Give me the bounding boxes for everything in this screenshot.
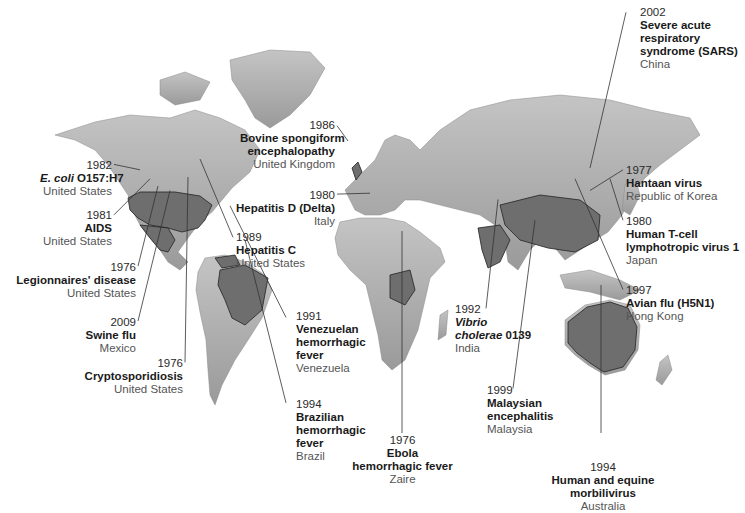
year: 1994 (296, 398, 376, 411)
disease-name: Hepatitis D (Delta) (235, 202, 335, 215)
disease-name: encephalitis (487, 410, 567, 423)
disease-name: Hepatitis C (236, 244, 326, 257)
disease-name: hemorrhagic (296, 336, 376, 349)
disease-name: respiratory (640, 32, 745, 45)
country: United States (40, 185, 112, 198)
label-sars: 2002 Severe acute respiratory syndrome (… (640, 6, 745, 71)
country: United States (40, 235, 112, 248)
year: 1980 (235, 189, 335, 202)
label-malaysian-encephalitis: 1999 Malaysian encephalitis Malaysia (487, 384, 567, 436)
disease-name: Cryptosporidiosis (80, 370, 183, 383)
disease-name: cholerae 0139 (455, 329, 535, 342)
label-legionnaires: 1976 Legionnaires' disease United States (10, 261, 136, 300)
country: Italy (235, 215, 335, 228)
year: 1982 (40, 159, 112, 172)
year: 1999 (487, 384, 567, 397)
label-hepatitis-c: 1989 Hepatitis C United States (236, 231, 326, 270)
country: Venezuela (296, 362, 376, 375)
year: 1976 (80, 357, 183, 370)
year: 2009 (60, 316, 136, 329)
disease-name: Swine flu (60, 329, 136, 342)
disease-name: fever (296, 349, 376, 362)
year: 1976 (350, 434, 455, 447)
label-hantaan: 1977 Hantaan virus Republic of Korea (626, 164, 741, 203)
country: India (455, 342, 535, 355)
disease-name: Human and equine (548, 474, 658, 487)
year: 1992 (455, 303, 535, 316)
label-ecoli: 1982 E. coli O157:H7 United States (40, 159, 112, 198)
disease-name: Vibrio (455, 316, 535, 329)
label-hepatitis-d: 1980 Hepatitis D (Delta) Italy (235, 189, 335, 228)
country: Japan (626, 254, 745, 267)
year: 1981 (40, 209, 112, 222)
disease-name: Legionnaires' disease (10, 274, 136, 287)
year: 1997 (626, 284, 741, 297)
disease-name: Bovine spongiform (240, 132, 335, 145)
country: Australia (548, 500, 658, 513)
year: 1977 (626, 164, 741, 177)
disease-name: syndrome (SARS) (640, 45, 745, 58)
country: Republic of Korea (626, 190, 741, 203)
label-aids: 1981 AIDS United States (40, 209, 112, 248)
label-ebola: 1976 Ebola hemorrhagic fever Zaire (350, 434, 455, 486)
country: Malaysia (487, 423, 567, 436)
disease-name: encephalopathy (240, 145, 335, 158)
year: 1986 (240, 119, 335, 132)
year: 1994 (548, 461, 658, 474)
disease-name: Venezuelan (296, 323, 376, 336)
label-htlv: 1980 Human T-cell lymphotropic virus 1 J… (626, 215, 745, 267)
disease-name: Avian flu (H5N1) (626, 297, 741, 310)
label-venezuelan-fever: 1991 Venezuelan hemorrhagic fever Venezu… (296, 310, 376, 375)
disease-name: Ebola (350, 447, 455, 460)
label-avian-flu: 1997 Avian flu (H5N1) Hong Kong (626, 284, 741, 323)
country: China (640, 58, 745, 71)
disease-name: AIDS (40, 222, 112, 235)
disease-name: E. coli O157:H7 (40, 172, 112, 185)
greenland (230, 50, 325, 128)
disease-name: Brazilian (296, 411, 376, 424)
label-cryptosporidiosis: 1976 Cryptosporidiosis United States (80, 357, 183, 396)
label-swine-flu: 2009 Swine flu Mexico (60, 316, 136, 355)
disease-name: hemorrhagic fever (350, 460, 455, 473)
country: Zaire (350, 473, 455, 486)
disease-name: Malaysian (487, 397, 567, 410)
disease-name: Severe acute (640, 19, 745, 32)
label-vibrio-cholerae: 1992 Vibrio cholerae 0139 India (455, 303, 535, 355)
label-bse: 1986 Bovine spongiform encephalopathy Un… (240, 119, 335, 171)
year: 2002 (640, 6, 745, 19)
country: United States (236, 257, 326, 270)
country: United States (10, 287, 136, 300)
year: 1980 (626, 215, 745, 228)
disease-name: morbilivirus (548, 487, 658, 500)
country: United Kingdom (240, 158, 335, 171)
year: 1991 (296, 310, 376, 323)
disease-name: lymphotropic virus 1 (626, 241, 745, 254)
disease-name: Hantaan virus (626, 177, 741, 190)
country: Mexico (60, 342, 136, 355)
year: 1989 (236, 231, 326, 244)
year: 1976 (10, 261, 136, 274)
disease-name: Human T-cell (626, 228, 745, 241)
country: Hong Kong (626, 310, 741, 323)
label-morbilivirus: 1994 Human and equine morbilivirus Austr… (548, 461, 658, 513)
country: United States (80, 383, 183, 396)
